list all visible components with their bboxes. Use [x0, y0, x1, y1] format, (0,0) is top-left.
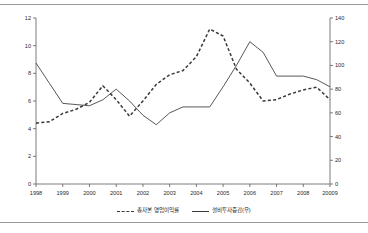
x-axis-tick-label: 2007	[270, 190, 282, 196]
x-axis-tick-label: 20009	[322, 190, 338, 196]
x-axis-tick-label: 2006	[244, 190, 256, 196]
series-line-2	[36, 42, 330, 125]
right-axis-tick-label: 40	[335, 134, 341, 140]
series-group	[36, 29, 330, 125]
left-axis-tick-label: 6	[28, 98, 31, 104]
legend-label-solid: 설비투자증감(우)	[212, 208, 251, 214]
left-axis-tick-label: 8	[28, 70, 31, 76]
left-axis-tick-label: 0	[28, 181, 31, 187]
x-axis-tick-label: 2003	[163, 190, 175, 196]
right-axis-tick-label: 20	[335, 157, 341, 163]
chart-legend: 총자본 영업이익률 설비투자증감(우)	[0, 204, 368, 218]
x-axis: 1998199920002001200220032004200520062007…	[30, 184, 338, 196]
x-axis-tick-label: 2004	[190, 190, 202, 196]
right-axis-tick-label: 100	[335, 62, 344, 68]
x-axis-tick-label: 2001	[110, 190, 122, 196]
right-axis: 020406080100120140	[330, 15, 344, 187]
figure-container: 024681012 020406080100120140 19981999200…	[0, 0, 368, 233]
right-axis-tick-label: 120	[335, 39, 344, 45]
chart-plot-area: 024681012 020406080100120140 19981999200…	[0, 8, 368, 208]
left-axis: 024681012	[25, 15, 36, 187]
right-axis-tick-label: 140	[335, 15, 344, 21]
legend-swatch-dashed-icon	[117, 211, 134, 212]
x-axis-tick-label: 1998	[30, 190, 42, 196]
x-axis-tick-label: 1999	[57, 190, 69, 196]
legend-item-dashed: 총자본 영업이익률	[117, 208, 179, 214]
left-axis-tick-label: 2	[28, 153, 31, 159]
right-axis-tick-label: 0	[335, 181, 338, 187]
x-axis-tick-label: 2002	[137, 190, 149, 196]
legend-item-solid: 설비투자증감(우)	[192, 208, 251, 214]
x-axis-tick-label: 2008	[297, 190, 309, 196]
right-axis-tick-label: 80	[335, 86, 341, 92]
legend-label-dashed: 총자본 영업이익률	[137, 208, 179, 214]
left-axis-tick-label: 4	[28, 126, 31, 132]
figure-top-rule	[0, 4, 368, 5]
left-axis-tick-label: 10	[25, 43, 31, 49]
right-axis-tick-label: 60	[335, 110, 341, 116]
figure-bottom-rule	[0, 222, 368, 223]
left-axis-tick-label: 12	[25, 15, 31, 21]
x-axis-tick-label: 2000	[83, 190, 95, 196]
dual-axis-line-chart: 024681012 020406080100120140 19981999200…	[0, 8, 368, 208]
x-axis-tick-label: 2005	[217, 190, 229, 196]
legend-swatch-solid-icon	[192, 211, 209, 212]
